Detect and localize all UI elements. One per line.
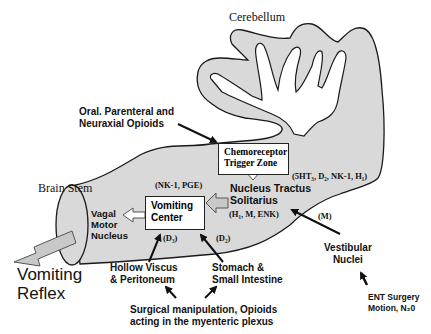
- stomach-small-intestine-label: Stomach & Small Intestine: [212, 262, 283, 286]
- vestibular-receptor-label: (M): [318, 211, 332, 221]
- ctz-receptors-label: (5HT₃, D₂, NK-1, H₁): [292, 171, 367, 181]
- ent-stimulus-label: ENT Surgery Motion, N₂0: [368, 292, 420, 314]
- hollow-viscus-label: Hollow Viscus & Peritoneum: [110, 262, 178, 286]
- vomiting-pathway-diagram: Cerebellum Brain Stem Oral. Parenteral a…: [0, 0, 431, 334]
- opioids-stimulus-label: Oral. Parenteral and Neuraxial Opioids: [79, 106, 174, 130]
- vestibular-to-nts-arrow: [292, 210, 340, 234]
- vc-receptors-label: (NK-1, PGE): [155, 180, 202, 190]
- brain-stem-label: Brain Stem: [38, 181, 92, 196]
- d3-receptor-label: (D₃): [163, 233, 177, 243]
- chemoreceptor-trigger-zone-box: Chemoreceptor Trigger Zone: [218, 143, 289, 175]
- vagal-motor-nucleus-label: Vagal Motor Nucleus: [91, 208, 128, 241]
- ent-to-vestibular-arrow: [361, 273, 367, 285]
- surgical-to-stomach-arrow: [205, 287, 216, 298]
- cerebellum-label: Cerebellum: [229, 10, 285, 25]
- surgical-to-hollow-viscus-arrow: [166, 287, 176, 298]
- vomiting-center-box: Vomiting Center: [145, 196, 205, 230]
- vomiting-reflex-label: Vomiting Reflex: [17, 265, 82, 303]
- brainstem-cut-end: [56, 185, 88, 265]
- nts-receptors-label: (H₁, M, ENK): [229, 209, 279, 219]
- opioids-to-ctz-arrow: [178, 124, 216, 142]
- vestibular-nuclei-label: Vestibular Nuclei: [324, 242, 372, 266]
- surgical-stimulus-label: Surgical manipulation, Opioids acting in…: [130, 304, 277, 328]
- nucleus-tractus-solitarius-label: Nucleus Tractus Solitarius: [230, 182, 311, 206]
- d2-receptor-label: (D₂): [216, 233, 230, 243]
